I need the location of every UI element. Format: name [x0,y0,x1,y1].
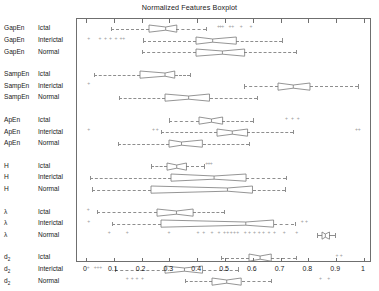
y-label-condition: Interictal [38,36,63,43]
x-tick-top [142,19,143,23]
outlier-marker [293,121,295,123]
outlier-marker [100,41,102,43]
whisker-cap-low [118,142,119,146]
whisker-high [186,166,204,167]
x-tick-bottom [225,258,226,262]
y-label-condition: Interictal [38,265,63,272]
y-label-condition: Interictal [38,82,63,89]
whisker-cap-high [286,176,287,180]
whisker-cap-high [285,187,286,191]
x-tick-bottom [142,258,143,262]
y-label-feature: GapEn [4,24,25,31]
whisker-low [185,281,213,282]
box-notched [167,139,204,148]
whisker-cap-low [142,50,143,54]
x-tick-label: 0 [73,265,97,272]
whisker-low [92,190,152,191]
whisker-low [111,29,149,30]
chart-title: Normalized Features Boxplot [0,3,379,12]
x-tick-label: 0.6 [240,265,264,272]
y-label-subscript: 2 [8,269,11,274]
x-tick-bottom [364,258,365,262]
outlier-marker [154,132,156,134]
outlier-marker [269,235,271,237]
x-tick-top [114,19,115,23]
y-label-condition: Ictal [38,24,50,31]
y-label-feature: λ [4,231,7,238]
whisker-cap-low [221,256,222,260]
outlier-marker [89,41,91,43]
y-label-feature: λ [4,208,7,215]
outlier-marker [133,281,135,283]
outlier-marker [158,132,160,134]
whisker-high [210,98,257,99]
outlier-marker [287,121,289,123]
whisker-cap-high [253,118,254,122]
outlier-marker [238,235,240,237]
outlier-marker [264,235,266,237]
box-notched [165,162,188,171]
x-tick-top [253,19,254,23]
whisker-cap-low [112,222,113,226]
outlier-marker [228,235,230,237]
outlier-marker [307,224,309,226]
y-label-feature: SampEn [4,70,29,77]
whisker-cap-high [282,38,283,42]
y-label-feature: H [4,173,9,180]
x-tick-bottom [197,258,198,262]
whisker-high [253,190,285,191]
outlier-marker [223,29,225,31]
whisker-low [169,121,198,122]
outlier-marker [338,258,340,260]
whisker-low [244,86,277,87]
y-label-condition: Interictal [38,128,63,135]
whisker-cap-high [358,84,359,88]
whisker-cap-high [190,73,191,77]
whisker-high [222,121,253,122]
y-label-condition: Normal [38,93,59,100]
outlier-marker [122,41,124,43]
outlier-marker [297,235,299,237]
outlier-marker [232,235,234,237]
box-notched [215,128,250,137]
y-label-feature: ApEn [4,116,20,123]
outlier-marker [360,132,362,134]
whisker-high [175,75,190,76]
y-label-feature: H [4,162,9,169]
x-tick-bottom [308,258,309,262]
outlier-marker [212,235,214,237]
y-label-feature: d2 [4,265,10,275]
whisker-cap-low [94,73,95,77]
outlier-marker [251,29,253,31]
y-label-condition: Normal [38,277,59,284]
y-label-feature: SampEn [4,82,29,89]
whisker-cap-high [295,222,296,226]
whisker-cap-low [97,210,98,214]
whisker-cap-low [143,38,144,42]
y-label-condition: Ictal [38,253,50,260]
whisker-low [112,224,161,225]
x-tick-bottom [114,258,115,262]
x-tick-label: 1 [351,265,375,272]
outlier-marker [242,29,244,31]
outlier-marker [117,41,119,43]
box-notched [169,173,248,182]
y-label-condition: Ictal [38,116,50,123]
x-tick-label: 0.7 [268,265,292,272]
plot-area [76,18,371,262]
y-label-condition: Normal [38,185,59,192]
x-tick-top [281,19,282,23]
whisker-high [193,212,224,213]
whisker-cap-high [206,27,207,31]
outlier-marker [89,212,91,214]
whisker-cap-high [238,267,239,271]
box-notched [147,24,179,33]
x-tick-bottom [281,258,282,262]
outlier-marker [204,235,206,237]
y-label-feature: H [4,185,9,192]
y-label-condition: Normal [38,231,59,238]
outlier-marker [329,281,331,283]
y-label-feature: GapEn [4,48,25,55]
y-label-condition: Ictal [38,208,50,215]
outlier-marker [235,235,237,237]
